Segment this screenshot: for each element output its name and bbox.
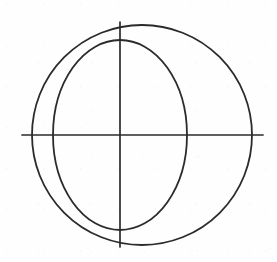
figure-canvas: Circle and ellipse intersecting on a pai… — [0, 0, 277, 262]
figure-background — [0, 0, 277, 262]
geometric-figure-svg — [0, 0, 277, 262]
